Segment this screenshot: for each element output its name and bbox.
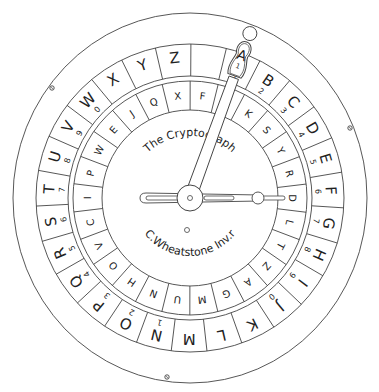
long-hand-knob[interactable]	[241, 25, 259, 43]
outer-cell-divider	[302, 138, 331, 151]
inner-ring-letter: L	[283, 219, 295, 227]
outer-ring-digit: 6	[59, 216, 69, 223]
inner-ring-letter: S	[261, 124, 273, 136]
outer-ring-digit: 8	[302, 245, 312, 253]
inner-ring-letter: U	[173, 294, 182, 306]
inner-ring-letter: Q	[148, 96, 159, 109]
inner-cell-divider	[81, 229, 108, 239]
inner-ring-letter: T	[274, 240, 287, 252]
small-pivot-hole	[185, 228, 190, 233]
outer-ring-letter: L	[215, 326, 228, 346]
outer-ring-letter: G	[319, 216, 339, 231]
cryptograph-svg: A1B2C3D4E5F6G7H8I9J0KLMN1O2P3Q4R5S6T7U8V…	[0, 0, 379, 392]
outer-cell-divider	[122, 60, 136, 89]
inner-ring-letter: I	[82, 196, 93, 199]
inner-cell-divider	[162, 283, 169, 311]
inner-cell-divider	[162, 84, 169, 112]
outer-ring-digit: 9	[287, 270, 297, 279]
outer-ring-digit: 6	[313, 189, 322, 195]
outer-ring-digit: 4	[296, 130, 306, 139]
inner-ring-letter: P	[84, 169, 96, 178]
title-arc-text: The Cryptograph	[140, 126, 239, 156]
outer-ring-letter: M	[183, 330, 196, 348]
inner-ring-letter: G	[221, 287, 232, 300]
outer-cell-divider	[245, 61, 260, 90]
outer-ring-letter: Z	[168, 48, 180, 67]
inner-ring-letter: N	[148, 287, 159, 300]
inner-ring-letter: H	[125, 276, 137, 289]
inner-cell-divider	[277, 184, 306, 187]
outer-ring-letter: X	[104, 69, 122, 90]
inner-ring-letter: D	[287, 194, 298, 202]
outer-ring-letter: E	[315, 151, 335, 165]
outer-cell-divider	[231, 313, 242, 343]
outer-cell-divider	[36, 204, 68, 206]
outer-ring-digit: 2	[256, 86, 265, 96]
inner-cell-divider	[211, 283, 218, 311]
inner-cell-divider	[74, 208, 103, 211]
outer-ring-digit: 5	[67, 244, 77, 252]
outer-cell-divider	[136, 312, 147, 342]
inner-ring-letter: W	[92, 143, 106, 157]
outer-ring-digit: 1	[156, 317, 163, 327]
outer-ring-digit: 5	[308, 158, 318, 165]
outer-ring-digit: 4	[82, 269, 92, 278]
outer-ring-digit: 0	[92, 105, 102, 115]
outer-ring-letter: K	[243, 314, 261, 335]
inner-ring-letter: A	[242, 276, 254, 289]
outer-cell-divider	[278, 282, 301, 304]
outer-ring-digit: 3	[279, 106, 289, 116]
inner-cell-divider	[272, 157, 299, 167]
inner-ring-letter: J	[127, 108, 136, 119]
inner-cell-divider	[81, 156, 108, 166]
inner-cell-divider	[277, 209, 306, 213]
inner-ring-letter: F	[199, 90, 206, 102]
outer-ring-digit: 3	[102, 290, 112, 300]
outer-ring-letter: S	[41, 215, 60, 227]
outer-ring-digit: 7	[311, 218, 321, 225]
outer-cell-divider	[38, 170, 69, 176]
outer-cell-divider	[312, 206, 344, 208]
outer-cell-divider	[307, 234, 338, 243]
outer-cell-divider	[295, 260, 323, 276]
outer-cell-divider	[155, 48, 162, 79]
center-pin	[188, 196, 193, 201]
outer-ring-digit: 7	[58, 187, 67, 193]
outer-ring-letter: T	[40, 183, 59, 195]
outer-cell-divider	[203, 319, 207, 351]
outer-ring-digit: 0	[267, 291, 277, 301]
inner-ring-letter: V	[93, 240, 106, 251]
inner-ring-letter: C	[84, 218, 96, 227]
outer-cell-divider	[49, 136, 78, 149]
outer-cell-divider	[42, 232, 73, 241]
outer-cell-divider	[310, 172, 342, 177]
inner-ring-letter: Z	[260, 260, 273, 273]
outer-cell-divider	[171, 319, 175, 351]
outer-ring-letter: F	[322, 186, 340, 196]
inner-ring-letter: Y	[274, 144, 287, 156]
outer-cell-divider	[256, 300, 273, 327]
cryptograph-diagram: A1B2C3D4E5F6G7H8I9J0KLMN1O2P3Q4R5S6T7U8V…	[0, 0, 379, 392]
outer-ring-letter: Y	[134, 55, 150, 76]
inventor-arc-text: C.Wheatstone Inv.r	[142, 227, 238, 259]
inner-cell-divider	[74, 184, 103, 188]
inner-ring-letter: X	[174, 90, 182, 102]
inner-ring-letter: K	[243, 107, 255, 120]
inner-ring-letter: E	[107, 124, 119, 136]
inner-ring-letter: R	[283, 169, 295, 178]
outer-ring-digit: 8	[63, 157, 73, 165]
outer-ring-digit: 9	[74, 129, 84, 138]
outer-ring-digit: 2	[128, 307, 137, 317]
outer-cell-divider	[219, 48, 227, 79]
short-hand-knob[interactable]	[252, 192, 264, 204]
inner-ring-letter: O	[106, 259, 120, 272]
inner-ring-letter: M	[197, 294, 207, 306]
short-hand[interactable]	[140, 192, 285, 204]
inner-cell-divider	[272, 229, 299, 239]
